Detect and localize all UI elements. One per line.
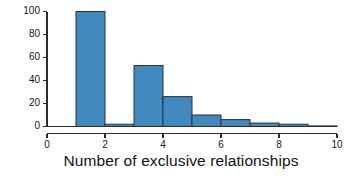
y-axis-tick-label: 100 [23, 6, 40, 16]
y-axis-tick-label: 60 [29, 52, 40, 62]
x-axis-tick-label: 8 [259, 140, 299, 150]
x-axis-tick-label: 2 [85, 140, 125, 150]
histogram-bar [192, 115, 221, 127]
bars-group [76, 12, 337, 127]
histogram-figure: 020406080100 0246810 Number of exclusive… [0, 0, 362, 179]
histogram-bar [163, 97, 192, 127]
x-axis-tick-label: 10 [317, 140, 357, 150]
x-axis-tick-label: 4 [143, 140, 183, 150]
histogram-bar [76, 12, 105, 127]
y-axis-tick-label: 20 [29, 98, 40, 108]
y-axis-tick-label: 80 [29, 29, 40, 39]
x-axis-tick-label: 6 [201, 140, 241, 150]
y-axis-tick-label: 40 [29, 75, 40, 85]
y-axis-tick-label: 0 [34, 121, 40, 131]
histogram-bar [134, 66, 163, 127]
x-axis-title: Number of exclusive relationships [0, 152, 362, 170]
histogram-bar [221, 120, 250, 127]
x-axis-tick-label: 0 [27, 140, 67, 150]
